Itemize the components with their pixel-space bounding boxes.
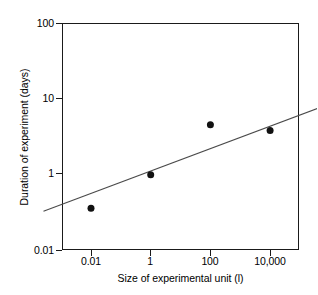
- scatter-chart-figure: 100 10 1 0.01 0.01 1 100 10,000 Size of …: [0, 0, 317, 295]
- data-point: [88, 205, 95, 212]
- data-point: [147, 171, 154, 178]
- data-points-group: [88, 58, 318, 212]
- data-point: [267, 127, 274, 134]
- plot-data-layer: [0, 0, 317, 295]
- trendline: [43, 44, 317, 211]
- trendline-group: [43, 44, 317, 211]
- data-point: [207, 121, 214, 128]
